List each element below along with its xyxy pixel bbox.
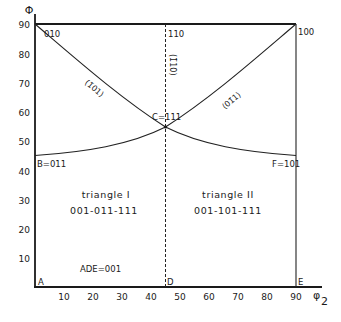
orientation-triangle-diagram: Φ 90 80 70 60 50 40 30 20 10 010 110 100…	[0, 0, 341, 322]
region-triangle-1: triangle I 001-011-111	[70, 189, 138, 216]
x-axis-ticks: 10 20 30 40 50 60 70 80 90	[58, 292, 302, 302]
x-axis-label: φ 2	[313, 289, 328, 308]
x-tick-30: 30	[116, 292, 128, 302]
point-c-marker	[164, 125, 167, 128]
curve-01-1	[166, 24, 297, 127]
x-tick-60: 60	[203, 292, 215, 302]
y-axis-ticks: 90 80 70 60 50 40 30 20 10	[19, 20, 31, 264]
label-010: 010	[44, 29, 60, 39]
y-tick-30: 30	[19, 196, 31, 206]
y-tick-10: 10	[19, 254, 31, 264]
curve-b-c	[35, 127, 166, 156]
y-tick-90: 90	[19, 20, 31, 30]
y-tick-20: 20	[19, 225, 31, 235]
label-a: A	[38, 277, 44, 287]
triangle-2-vertices: 001-101-111	[194, 205, 262, 216]
triangle-1-vertices: 001-011-111	[70, 205, 138, 216]
x-tick-50: 50	[174, 292, 186, 302]
label-f-101: F=101	[272, 159, 300, 169]
label-ade-001: ADE=001	[80, 264, 121, 274]
y-tick-70: 70	[19, 79, 31, 89]
curve-c-f	[166, 127, 297, 156]
label-e: E	[298, 277, 303, 287]
x-tick-90: 90	[290, 292, 302, 302]
label-100: 100	[298, 27, 314, 37]
x-tick-20: 20	[87, 292, 99, 302]
triangle-1-title: triangle I	[82, 189, 130, 200]
x-tick-40: 40	[145, 292, 157, 302]
x-tick-70: 70	[232, 292, 244, 302]
triangle-2-title: triangle II	[202, 189, 254, 200]
label-curve-1-01: (1̄01)	[83, 78, 105, 99]
x-tick-80: 80	[261, 292, 273, 302]
y-tick-50: 50	[19, 137, 31, 147]
x-tick-10: 10	[58, 292, 70, 302]
label-c-111: C=111	[152, 112, 181, 122]
y-tick-80: 80	[19, 50, 31, 60]
y-tick-60: 60	[19, 108, 31, 118]
region-triangle-2: triangle II 001-101-111	[194, 189, 262, 216]
label-b-011: B=011	[37, 159, 66, 169]
y-axis-label: Φ	[25, 4, 34, 17]
curve-1-01	[35, 24, 166, 127]
label-110: 110	[168, 29, 184, 39]
x-axis-label-subscript: 2	[321, 295, 328, 308]
label-vertical-1-10: (1̄10)	[168, 54, 177, 76]
label-d: D	[167, 277, 174, 287]
label-curve-01-1: (01̄1)	[220, 90, 242, 111]
x-axis-label-main: φ	[313, 289, 320, 302]
y-tick-40: 40	[19, 167, 31, 177]
